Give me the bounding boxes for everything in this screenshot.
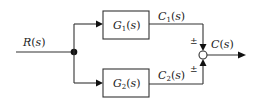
arrow-into-g1 — [96, 21, 103, 28]
arrow-into-g2 — [96, 80, 103, 87]
block-g2-label: G2(s) — [113, 77, 141, 91]
block-g1-label: G1(s) — [113, 19, 141, 33]
signal-c1-label: C1(s) — [158, 10, 185, 24]
sign-bottom: ± — [190, 64, 198, 74]
input-label: R(s) — [22, 36, 46, 49]
sign-top: ± — [190, 36, 198, 46]
output-arrow — [238, 52, 246, 59]
arrow-c1-into-sum — [200, 44, 207, 51]
output-label: C(s) — [211, 38, 234, 51]
signal-c2-label: C2(s) — [158, 69, 185, 83]
summing-junction — [199, 51, 207, 59]
arrow-c2-into-sum — [200, 59, 207, 66]
block-diagram: R(s) G1(s) G2(s) C1(s) C2(s) ± ± C(s) — [0, 0, 258, 103]
